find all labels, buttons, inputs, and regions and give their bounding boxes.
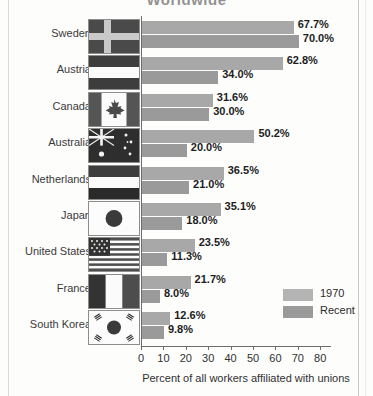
x-tick-label: 70: [286, 352, 310, 364]
chart-page: Worldwide Sweden 67.7%70.0%Austria 62.8%…: [0, 0, 373, 396]
x-tick-mark: [208, 346, 209, 350]
bar-recent: 20.0%: [142, 144, 187, 157]
x-tick-mark: [320, 346, 321, 350]
country-label: Sweden: [0, 27, 91, 39]
x-tick-label: 60: [263, 352, 287, 364]
flag-sweden-icon: [88, 19, 140, 54]
bar-row: South Korea: [0, 309, 373, 345]
bar-1970: 62.8%: [142, 57, 283, 70]
plot-area: Sweden 67.7%70.0%Austria 62.8%34.0%Canad…: [0, 16, 373, 350]
bar-recent: 18.0%: [142, 217, 182, 230]
bar-1970: 12.6%: [142, 312, 170, 325]
bar-recent: 9.8%: [142, 326, 164, 339]
bar-row: United States 23.5%11.3%: [0, 236, 373, 272]
bar-row: Netherlands 36.5%21.0%: [0, 164, 373, 200]
bar-row: Australia 50.2%20.0%: [0, 127, 373, 163]
x-axis-line: [141, 346, 331, 347]
bar-value-label: 23.5%: [199, 236, 230, 248]
bar-recent: 34.0%: [142, 71, 218, 84]
bar-value-label: 20.0%: [191, 141, 222, 153]
x-tick-label: 40: [219, 352, 243, 364]
bar-row: France 21.7%8.0%: [0, 273, 373, 309]
bar-value-label: 12.6%: [174, 309, 205, 321]
bar-row: Austria 62.8%34.0%: [0, 54, 373, 90]
flag-japan-icon: [88, 201, 140, 236]
x-tick-label: 80: [308, 352, 332, 364]
bar-value-label: 21.7%: [195, 273, 226, 285]
bar-value-label: 35.1%: [225, 200, 256, 212]
bar-value-label: 62.8%: [287, 54, 318, 66]
bar-row: Japan 35.1%18.0%: [0, 200, 373, 236]
legend-swatch-1970: [283, 289, 313, 301]
country-label: Netherlands: [0, 173, 91, 185]
country-label: Canada: [0, 100, 91, 112]
x-tick-label: 0: [129, 352, 153, 364]
legend-swatch-recent: [283, 306, 313, 318]
x-axis-title: Percent of all workers affiliated with u…: [141, 372, 351, 384]
x-tick-mark: [186, 346, 187, 350]
flag-united-states-icon: [88, 237, 140, 272]
x-tick-mark: [163, 346, 164, 350]
x-tick-mark: [253, 346, 254, 350]
bar-value-label: 18.0%: [186, 214, 217, 226]
country-label: Japan: [0, 209, 91, 221]
bar-row: Canada 31.6%30.0%: [0, 91, 373, 127]
x-tick-label: 30: [196, 352, 220, 364]
chart-title: Worldwide: [0, 0, 373, 7]
bar-recent: 11.3%: [142, 253, 167, 266]
flag-netherlands-icon: [88, 165, 140, 200]
x-tick-label: 50: [241, 352, 265, 364]
bar-value-label: 8.0%: [164, 287, 189, 299]
bar-row: Sweden 67.7%70.0%: [0, 18, 373, 54]
x-tick-mark: [298, 346, 299, 350]
legend-label-1970: 1970: [320, 287, 344, 299]
bar-recent: 30.0%: [142, 108, 209, 121]
bar-1970: 67.7%: [142, 21, 294, 34]
flag-france-icon: [88, 274, 140, 309]
x-tick-mark: [275, 346, 276, 350]
country-label: Australia: [0, 136, 91, 148]
x-tick-label: 10: [151, 352, 175, 364]
bar-recent: 70.0%: [142, 35, 299, 48]
flag-australia-icon: [88, 128, 140, 163]
bar-1970: 31.6%: [142, 94, 213, 107]
bar-value-label: 34.0%: [222, 68, 253, 80]
bar-value-label: 9.8%: [168, 323, 193, 335]
bar-recent: 21.0%: [142, 181, 189, 194]
bar-value-label: 36.5%: [228, 164, 259, 176]
country-label: South Korea: [0, 318, 91, 330]
x-tick-label: 20: [174, 352, 198, 364]
bar-value-label: 11.3%: [171, 250, 202, 262]
country-label: United States: [0, 245, 91, 257]
bar-value-label: 67.7%: [298, 18, 329, 30]
country-label: Austria: [0, 63, 91, 75]
bar-recent: 8.0%: [142, 290, 160, 303]
bar-value-label: 31.6%: [217, 91, 248, 103]
bar-value-label: 30.0%: [213, 105, 244, 117]
flag-canada-icon: [88, 92, 140, 127]
bar-value-label: 50.2%: [258, 127, 289, 139]
country-label: France: [0, 282, 91, 294]
bar-value-label: 21.0%: [193, 178, 224, 190]
legend-label-recent: Recent: [320, 304, 355, 316]
flag-austria-icon: [88, 55, 140, 90]
x-tick-mark: [231, 346, 232, 350]
flag-south-korea-icon: [88, 310, 140, 345]
x-tick-mark: [141, 346, 142, 350]
bar-value-label: 70.0%: [303, 32, 334, 44]
